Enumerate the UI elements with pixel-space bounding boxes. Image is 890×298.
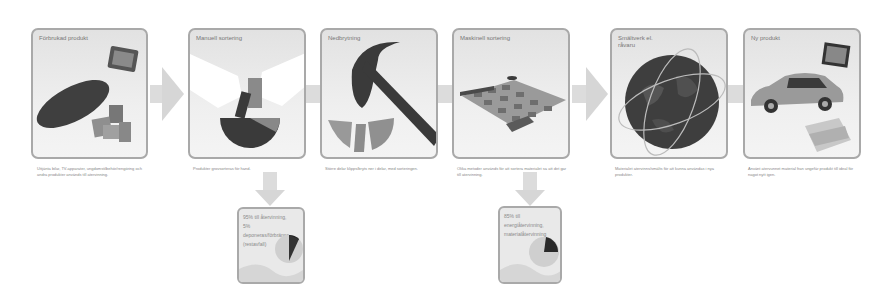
branch-box-machine-sorting-result: 85% till energiåtervinning, materialåter… bbox=[498, 206, 562, 284]
step-panel-manual-sorting: Manuell sortering bbox=[188, 28, 306, 159]
step-caption: Uttjänta bilar, TV-apparater, ungdomstil… bbox=[37, 166, 147, 178]
step-panel-discarded-product: Förbrukad produkt bbox=[31, 28, 148, 159]
flow-arrow-right bbox=[150, 67, 184, 121]
step-caption: Större delar klipps/bryts ner i delar, m… bbox=[325, 166, 435, 172]
hands-sorting-illustration bbox=[190, 30, 306, 159]
flow-arrow-down bbox=[255, 172, 285, 206]
flow-arrow-right bbox=[728, 67, 743, 121]
step-caption: Materialet återvinns/smälts för att kunn… bbox=[615, 166, 725, 178]
globe-illustration bbox=[612, 30, 728, 159]
step-panel-smelting: Smältverk el. råvaru bbox=[610, 28, 728, 159]
discarded-items-illustration bbox=[33, 30, 148, 159]
step-panel-breakdown: Nedbrytning bbox=[320, 28, 438, 159]
flow-arrow-right bbox=[438, 67, 452, 121]
step-caption: Olika metoder används för att sortera ma… bbox=[457, 166, 567, 178]
sorting-grid-illustration bbox=[454, 30, 570, 159]
hammer-illustration bbox=[322, 30, 438, 159]
step-caption: Använt återvunnet material från ungefär … bbox=[748, 166, 858, 178]
pie-chart-icon bbox=[239, 209, 305, 284]
branch-box-manual-sorting-result: 95% till återvinning, 5% deponeras/förbr… bbox=[237, 207, 305, 284]
step-panel-new-product: Ny produkt bbox=[743, 28, 861, 159]
flow-arrow-right bbox=[306, 67, 320, 121]
step-panel-machine-sorting: Maskinell sortering bbox=[452, 28, 570, 159]
new-products-illustration bbox=[745, 30, 861, 159]
flow-arrow-down bbox=[515, 172, 545, 206]
pie-chart-icon bbox=[500, 208, 562, 284]
flow-arrow-right bbox=[572, 67, 608, 121]
